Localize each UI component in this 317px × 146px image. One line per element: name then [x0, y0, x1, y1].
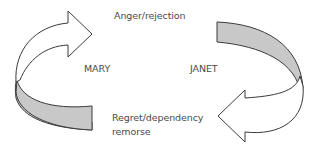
participant-label-janet: JANET: [190, 62, 218, 75]
right-arrow-shape: [218, 76, 303, 142]
left-arrow-shape: [16, 11, 92, 82]
stage-label-anger-rejection: Anger/rejection: [114, 9, 185, 22]
right-band-shape: [217, 22, 303, 94]
stage-label-remorse: remorse: [112, 125, 151, 138]
participant-label-mary: MARY: [84, 62, 110, 75]
stage-label-regret-dependency: Regret/dependency: [112, 111, 203, 124]
left-band-fill: [16, 80, 92, 130]
